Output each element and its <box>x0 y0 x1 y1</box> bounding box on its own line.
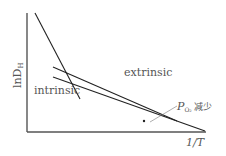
svg-text:lnDH: lnDH <box>11 62 25 88</box>
extrinsic-label: extrinsic <box>124 66 172 79</box>
y-axis-label: lnDH <box>11 62 25 88</box>
x-axis-label: 1/T <box>186 136 206 149</box>
diagram-svg: lnDH intrinsic extrinsic PO₂减少 1/T <box>0 0 226 156</box>
diagram-canvas: lnDH intrinsic extrinsic PO₂减少 1/T <box>0 0 226 156</box>
annotation-dot <box>143 120 145 122</box>
intrinsic-label: intrinsic <box>34 84 80 97</box>
annotation-label: PO₂减少 <box>176 100 212 113</box>
